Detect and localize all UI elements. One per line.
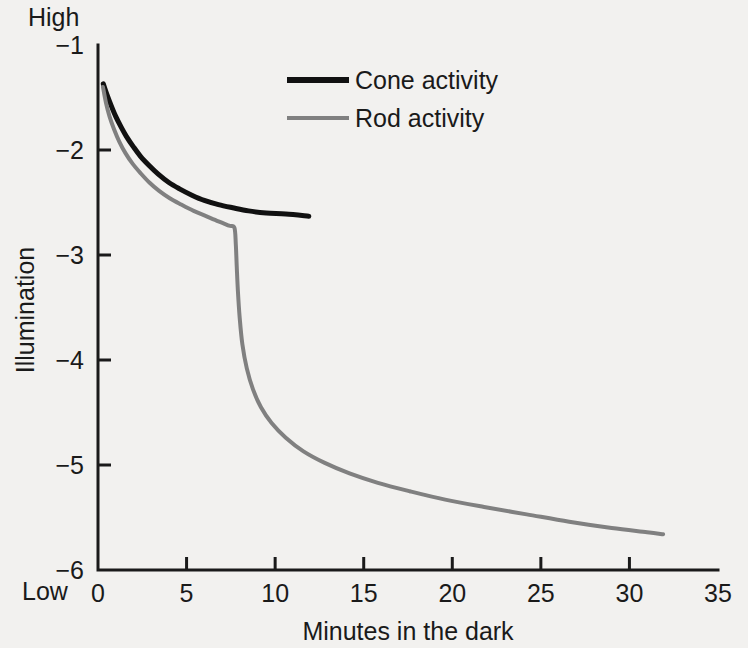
series-line-cone-activity <box>103 84 308 216</box>
x-axis-tick-label: 30 <box>616 579 644 607</box>
x-axis-tick-label: 35 <box>704 579 732 607</box>
y-axis-low-label: Low <box>22 577 69 605</box>
y-axis-tick-label: −2 <box>55 136 84 164</box>
y-axis-tick-labels: −1−2−3−4−5−6 <box>55 31 84 584</box>
series-group <box>103 84 663 534</box>
y-axis-tick-label: −1 <box>55 31 84 59</box>
chart-legend: Cone activityRod activity <box>287 66 499 132</box>
chart-canvas: 05101520253035 −1−2−3−4−5−6 High Low Ill… <box>0 0 748 648</box>
legend-label-cone-activity: Cone activity <box>355 66 499 94</box>
series-line-rod-activity <box>103 87 663 534</box>
x-axis-tick-label: 5 <box>180 579 194 607</box>
y-axis-tick-label: −4 <box>55 346 84 374</box>
y-axis-high-label: High <box>28 3 79 31</box>
x-axis-tick-label: 15 <box>350 579 378 607</box>
legend-label-rod-activity: Rod activity <box>355 104 485 132</box>
x-axis-tick-marks <box>187 557 630 570</box>
x-axis-tick-label: 0 <box>91 579 105 607</box>
x-axis-tick-label: 10 <box>261 579 289 607</box>
y-axis-tick-marks <box>98 150 111 465</box>
x-axis-title: Minutes in the dark <box>302 617 514 645</box>
y-axis-tick-label: −5 <box>55 451 84 479</box>
x-axis-tick-label: 20 <box>438 579 466 607</box>
dark-adaptation-chart: 05101520253035 −1−2−3−4−5−6 High Low Ill… <box>0 0 748 648</box>
x-axis-tick-label: 25 <box>527 579 555 607</box>
y-axis-title: Illumination <box>11 247 39 373</box>
x-axis-tick-labels: 05101520253035 <box>91 579 732 607</box>
y-axis-tick-label: −3 <box>55 241 84 269</box>
